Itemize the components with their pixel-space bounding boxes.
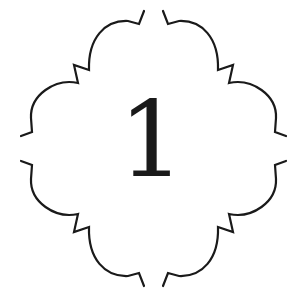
badge-numeral: 1	[0, 88, 303, 192]
